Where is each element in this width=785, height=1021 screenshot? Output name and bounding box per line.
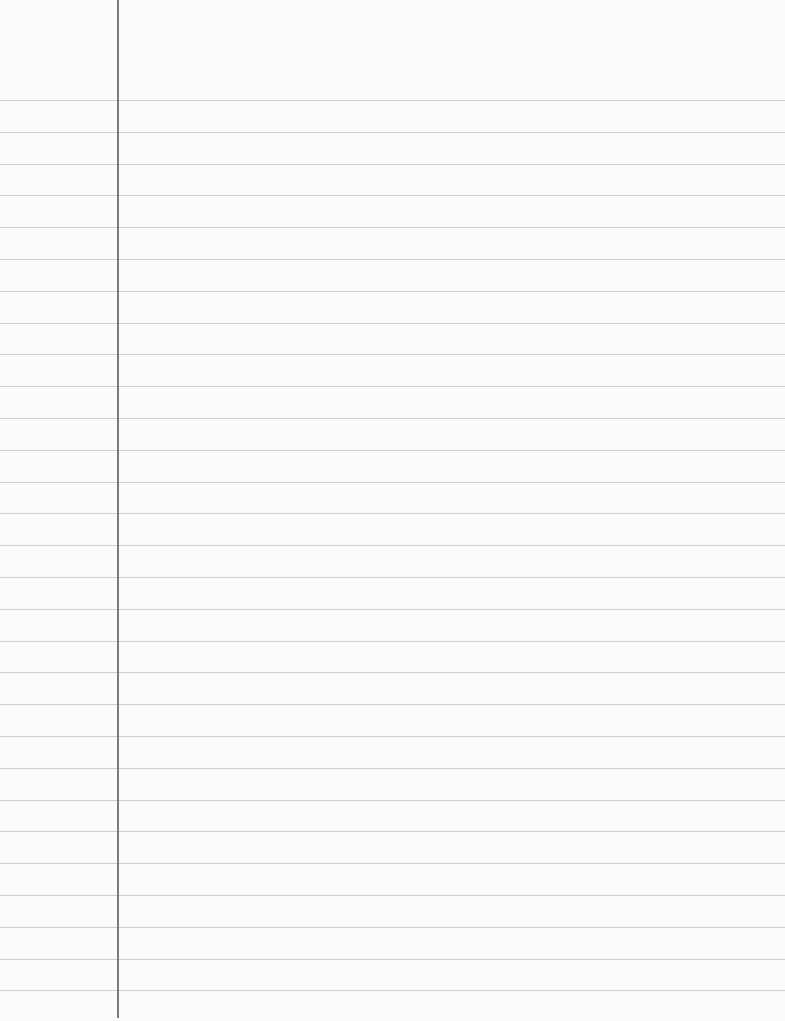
lined-paper xyxy=(0,0,785,1021)
margin-line xyxy=(117,0,119,1018)
